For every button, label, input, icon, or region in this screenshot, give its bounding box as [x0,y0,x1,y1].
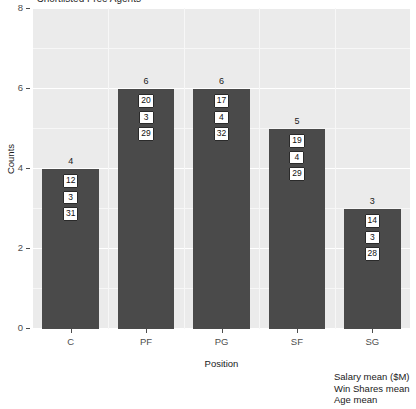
y-tick-label-4: 4 [18,163,23,173]
y-tick-mark-6 [26,88,30,89]
gridline-v-3 [259,8,260,329]
stat-age-mean-pg: 32 [214,127,229,141]
x-tick-label-sg: SG [365,336,379,347]
stat-stack-pf: 20 3 29 [118,94,175,141]
x-tick-mark-c [71,329,72,333]
stat-salary-mean-pf: 20 [138,94,153,108]
stat-win-shares-mean-pg: 4 [214,111,229,125]
bar-total-pf: 6 [118,76,175,86]
x-axis: C PF PG SF SG [33,329,410,355]
stat-stack-c: 12 3 31 [42,174,99,221]
bar-total-sf: 5 [269,116,326,126]
stat-age-mean-sf: 29 [289,167,304,181]
stat-salary-mean-c: 12 [63,174,78,188]
x-tick-mark-pf [146,329,147,333]
stat-win-shares-mean-sf: 4 [289,151,304,165]
y-tick-label-8: 8 [18,3,23,13]
bar-total-sg: 3 [344,196,401,206]
plot-panel: 4 12 3 31 6 20 3 29 6 17 4 32 5 19 4 29 … [33,8,410,329]
gridline-v-4 [335,8,336,329]
x-tick-mark-sg [372,329,373,333]
y-tick-mark-2 [26,248,30,249]
stat-age-mean-sg: 28 [365,247,380,261]
x-tick-mark-sf [297,329,298,333]
x-tick-mark-pg [222,329,223,333]
x-tick-label-pg: PG [215,336,229,347]
x-tick-label-sf: SF [291,336,303,347]
stat-salary-mean-sf: 19 [289,134,304,148]
legend: Salary mean ($M) Win Shares mean Age mea… [334,371,410,406]
gridline-v-1 [108,8,109,329]
legend-entry-age-mean: Age mean [334,394,410,406]
stat-salary-mean-pg: 17 [214,94,229,108]
stat-stack-pg: 17 4 32 [193,94,250,141]
bar-total-pg: 6 [193,76,250,86]
gridline-major-8 [33,8,410,9]
stat-salary-mean-sg: 14 [365,214,380,228]
y-axis-title: Counts [6,129,16,189]
stat-stack-sg: 14 3 28 [344,214,401,261]
x-tick-label-pf: PF [140,336,152,347]
x-axis-title: Position [33,358,410,369]
y-tick-mark-8 [26,8,30,9]
stat-win-shares-mean-pf: 3 [139,111,154,125]
y-tick-mark-0 [26,328,30,329]
stat-win-shares-mean-c: 3 [63,191,78,205]
stat-age-mean-c: 31 [63,207,78,221]
stat-age-mean-pf: 29 [138,127,153,141]
stat-win-shares-mean-sg: 3 [365,231,380,245]
gridline-minor-7 [33,48,410,49]
stat-stack-sf: 19 4 29 [269,134,326,181]
chart-title: Shortlisted Free Agents [37,0,141,5]
y-tick-label-6: 6 [18,83,23,93]
x-tick-label-c: C [67,336,74,347]
y-tick-mark-4 [26,168,30,169]
y-tick-label-2: 2 [18,243,23,253]
legend-entry-win-shares-mean: Win Shares mean [334,383,410,395]
y-tick-label-0: 0 [18,323,23,333]
bar-total-c: 4 [42,156,99,166]
gridline-v-2 [184,8,185,329]
legend-entry-salary-mean: Salary mean ($M) [334,371,410,383]
